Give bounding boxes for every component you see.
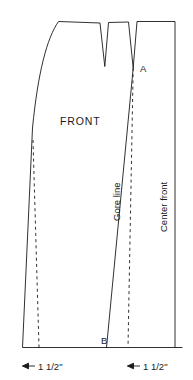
left-arrow-icon-right (128, 363, 134, 369)
waist-dart-2 (129, 22, 138, 69)
left-arrow-icon (23, 363, 29, 369)
dashed-line-left (33, 140, 39, 348)
dimension-right-value: 1 1/2" (143, 362, 168, 372)
dimension-left-value: 1 1/2" (38, 362, 63, 372)
waist-dart-1 (100, 23, 109, 67)
piece-label-front: FRONT (60, 116, 101, 127)
waist-edge-middle-segment (109, 22, 129, 23)
gore-line-label: Gore line (112, 182, 122, 221)
side-seam-line (23, 22, 59, 348)
center-front-label: Center front (159, 182, 169, 232)
waist-edge-left-segment (59, 22, 101, 24)
pattern-diagram: FRONT A B Gore line Center front 1 1/2" … (0, 0, 193, 380)
point-label-a: A (140, 64, 147, 74)
point-label-b: B (101, 336, 108, 346)
